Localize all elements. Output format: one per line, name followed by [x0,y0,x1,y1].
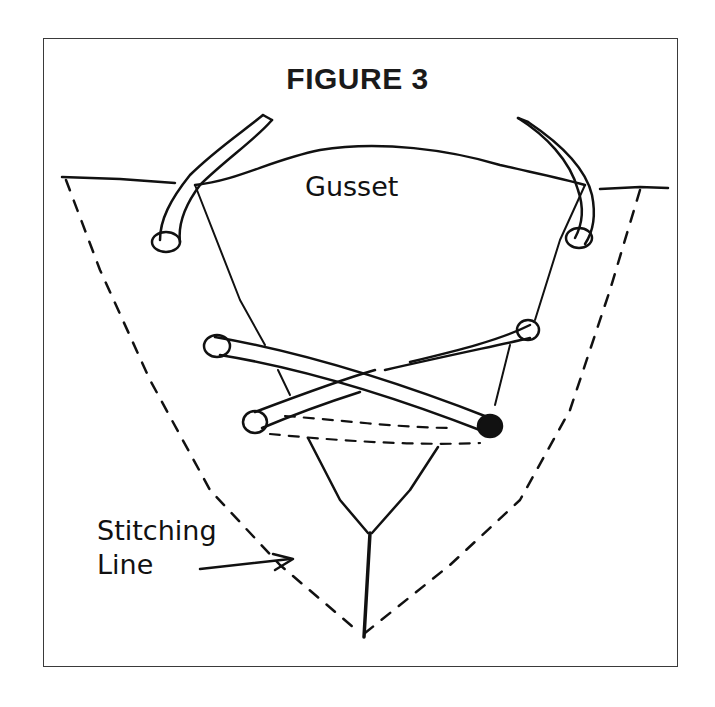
stitching-label-line1: Stitching [97,515,217,546]
inner-v-left [308,438,368,533]
gusset-lacing-diagram: Gusset Stitching Line [0,0,715,707]
stitching-line-right [365,190,640,633]
center-seam [364,533,370,637]
hidden-lace-upper [285,416,455,428]
stitching-line-arrow [200,559,290,569]
top-edge-right [600,187,668,189]
gusset-left-side [195,185,265,345]
inner-v-right [372,447,438,533]
gusset-right-side [535,185,585,320]
gusset-label: Gusset [305,171,398,202]
stitching-label-line2: Line [97,549,153,580]
hidden-lace-lower [270,434,480,444]
top-edge-left [62,177,175,183]
